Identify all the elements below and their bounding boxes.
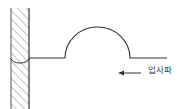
left-arrow-icon (118, 71, 141, 76)
fixed-wall (11, 8, 29, 109)
wave-diagram (0, 0, 189, 109)
incident-wave-pulse (29, 27, 167, 58)
incident-wave-label: 입사파 (148, 66, 172, 75)
